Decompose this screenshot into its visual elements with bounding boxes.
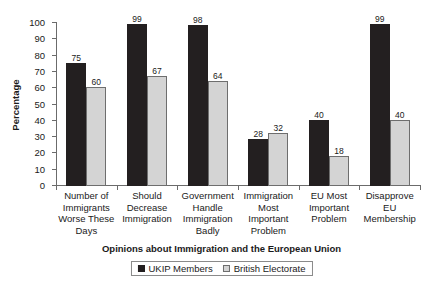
y-tick: 50: [52, 104, 57, 105]
legend-item-ukip-members: UKIP Members: [137, 263, 212, 274]
bar-value-label: 18: [334, 146, 343, 156]
x-category-label-line: Most: [238, 202, 299, 214]
x-category-label-line: Immigration: [117, 213, 178, 225]
x-category-label-line: Immigration: [177, 213, 238, 225]
bar-value-label: 99: [132, 14, 141, 24]
x-category-label-line: Handle: [177, 202, 238, 214]
y-tick-label: 100: [29, 17, 45, 28]
bar: 67: [147, 76, 167, 186]
legend-label-british-electorate: British Electorate: [234, 263, 306, 274]
x-category-label-line: Immigrants: [56, 202, 117, 214]
y-tick: 70: [52, 71, 57, 72]
bar: 75: [66, 63, 86, 186]
y-tick-label: 0: [40, 180, 45, 191]
bar: 99: [370, 24, 390, 186]
x-category-label-line: Problem: [299, 213, 360, 225]
bar-value-label: 64: [213, 71, 222, 81]
x-tick: [420, 185, 421, 190]
y-tick: 30: [52, 136, 57, 137]
y-tick: 90: [52, 38, 57, 39]
y-tick: 10: [52, 169, 57, 170]
x-category-label-line: Important: [299, 202, 360, 214]
x-category-label-line: Days: [56, 225, 117, 237]
x-category-label-line: Problem: [238, 225, 299, 237]
legend-swatch-icon-british-electorate: [223, 265, 230, 272]
x-category-label-line: Immigration: [238, 190, 299, 202]
y-tick-label: 40: [34, 114, 45, 125]
y-tick: 40: [52, 120, 57, 121]
bar-value-label: 67: [152, 66, 161, 76]
y-tick: 100: [52, 22, 57, 23]
y-tick-label: 60: [34, 82, 45, 93]
bar: 18: [329, 156, 349, 186]
x-category-label-line: Number of: [56, 190, 117, 202]
bar-value-label: 75: [72, 53, 81, 63]
chart-legend: UKIP Members British Electorate: [130, 261, 312, 276]
bar: 98: [188, 25, 208, 186]
bar-value-label: 98: [193, 15, 202, 25]
x-category-label: GovernmentHandleImmigrationBadly: [177, 190, 238, 236]
x-category-label-line: Disapprove: [359, 190, 420, 202]
x-category-label-line: Should: [117, 190, 178, 202]
legend-label-ukip-members: UKIP Members: [148, 263, 212, 274]
x-category-label-line: Membership: [359, 213, 420, 225]
x-category-label-line: Badly: [177, 225, 238, 237]
x-axis-title: Opinions about Immigration and the Europ…: [0, 243, 443, 254]
x-category-label: EU MostImportantProblem: [299, 190, 360, 225]
bar-value-label: 32: [274, 123, 283, 133]
bar: 40: [309, 120, 329, 186]
bar-value-label: 40: [395, 110, 404, 120]
x-category-label-line: Important: [238, 213, 299, 225]
bar-value-label: 60: [92, 77, 101, 87]
bar: 64: [208, 81, 228, 186]
bar-value-label: 40: [314, 110, 323, 120]
bar: 99: [127, 24, 147, 186]
x-category-label: ImmigrationMostImportantProblem: [238, 190, 299, 236]
plot-area: 0102030405060708090100 75609967986428324…: [56, 22, 420, 185]
bar: 28: [248, 139, 268, 186]
y-tick-label: 90: [34, 33, 45, 44]
x-category-label-line: EU: [359, 202, 420, 214]
x-category-label-line: Government: [177, 190, 238, 202]
y-tick-label: 20: [34, 147, 45, 158]
x-category-label-line: Decrease: [117, 202, 178, 214]
y-tick-label: 10: [34, 163, 45, 174]
legend-item-british-electorate: British Electorate: [223, 263, 306, 274]
x-category-label-line: Worse These: [56, 213, 117, 225]
y-tick-label: 80: [34, 49, 45, 60]
y-tick: 80: [52, 55, 57, 56]
y-tick-label: 30: [34, 131, 45, 142]
x-category-label: ShouldDecreaseImmigration: [117, 190, 178, 225]
bar-chart: Percentage 0102030405060708090100 756099…: [0, 0, 443, 281]
bar-value-label: 28: [254, 129, 263, 139]
y-tick-label: 70: [34, 65, 45, 76]
x-category-label: DisapproveEUMembership: [359, 190, 420, 225]
bar: 32: [268, 133, 288, 186]
bar-value-label: 99: [375, 14, 384, 24]
bar: 60: [86, 87, 106, 186]
legend-swatch-icon-ukip-members: [137, 265, 144, 272]
x-category-label: Number ofImmigrantsWorse TheseDays: [56, 190, 117, 236]
y-axis-title: Percentage: [10, 60, 24, 150]
y-tick: 20: [52, 152, 57, 153]
y-tick-label: 50: [34, 98, 45, 109]
x-category-label-line: EU Most: [299, 190, 360, 202]
y-tick: 60: [52, 87, 57, 88]
bar: 40: [390, 120, 410, 186]
